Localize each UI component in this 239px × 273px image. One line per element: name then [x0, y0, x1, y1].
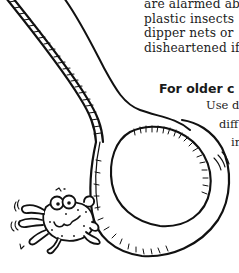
- spoon-bowl: [90, 120, 229, 256]
- body-line: plastic insects: [144, 12, 239, 27]
- section-line: diff: [219, 117, 238, 131]
- body-line: disheartened if: [144, 41, 239, 56]
- section-heading: For older c: [159, 81, 234, 96]
- body-line: are alarmed ab: [144, 0, 239, 12]
- body-line: dipper nets or: [144, 26, 239, 41]
- section-line: Use de: [206, 98, 239, 112]
- section-line: ir: [231, 135, 239, 149]
- body-paragraph: are alarmed ab plastic insects dipper ne…: [144, 0, 239, 55]
- crab: [11, 188, 100, 253]
- worksheet-page: are alarmed ab plastic insects dipper ne…: [0, 0, 239, 273]
